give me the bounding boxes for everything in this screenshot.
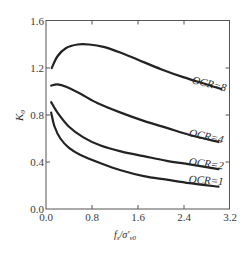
curve-label-ocr-4: OCR=4 [188,126,225,145]
y-tick-label: 1.2 [30,62,44,74]
curve-label-ocr-8: OCR=8 [191,73,228,93]
svg-text:K0: K0 [13,110,27,122]
y-tick-label: 0.4 [30,156,44,168]
x-axis-title: fs/σ'v0 [114,229,136,242]
curve-label-ocr-1: OCR=1 [188,173,224,187]
y-axis-label-sub-0: 0 [19,110,27,114]
y-tick-label: 0.0 [30,203,44,215]
y-tick-label: 0.8 [30,109,44,121]
svg-text:fs/σ'v0: fs/σ'v0 [114,229,136,242]
y-axis-title: K0 [13,110,27,122]
curve-labels: OCR=8OCR=4OCR=2OCR=1 [188,73,228,187]
x-axis-label-sub-v0: v0 [129,234,136,242]
x-tick-label: 2.4 [177,211,191,223]
x-tick-label: 3.2 [223,211,237,223]
x-tick-label: 1.6 [131,211,145,223]
x-tick-label: 0.8 [85,211,99,223]
y-tick-label: 1.6 [30,15,44,27]
curve-label-ocr-2: OCR=2 [188,155,225,171]
k0-vs-fs-chart: 0.00.81.62.43.20.00.40.81.21.6 OCR=8OCR=… [0,0,252,254]
